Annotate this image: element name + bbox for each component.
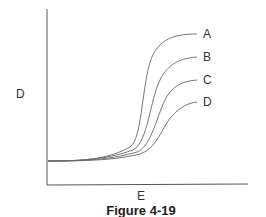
figure-caption: Figure 4-19 <box>0 203 266 217</box>
curve-d <box>48 102 197 161</box>
curve-label-d: D <box>203 96 212 108</box>
chart-canvas <box>0 0 266 217</box>
y-axis-label: D <box>16 88 25 100</box>
x-axis-label: E <box>137 190 145 202</box>
curve-label-a: A <box>203 28 211 40</box>
curve-a <box>48 34 197 161</box>
curve-label-c: C <box>203 74 212 86</box>
curve-label-b: B <box>203 51 211 63</box>
curve-c <box>48 80 197 161</box>
x-axis <box>47 184 248 185</box>
curve-b <box>48 57 197 161</box>
